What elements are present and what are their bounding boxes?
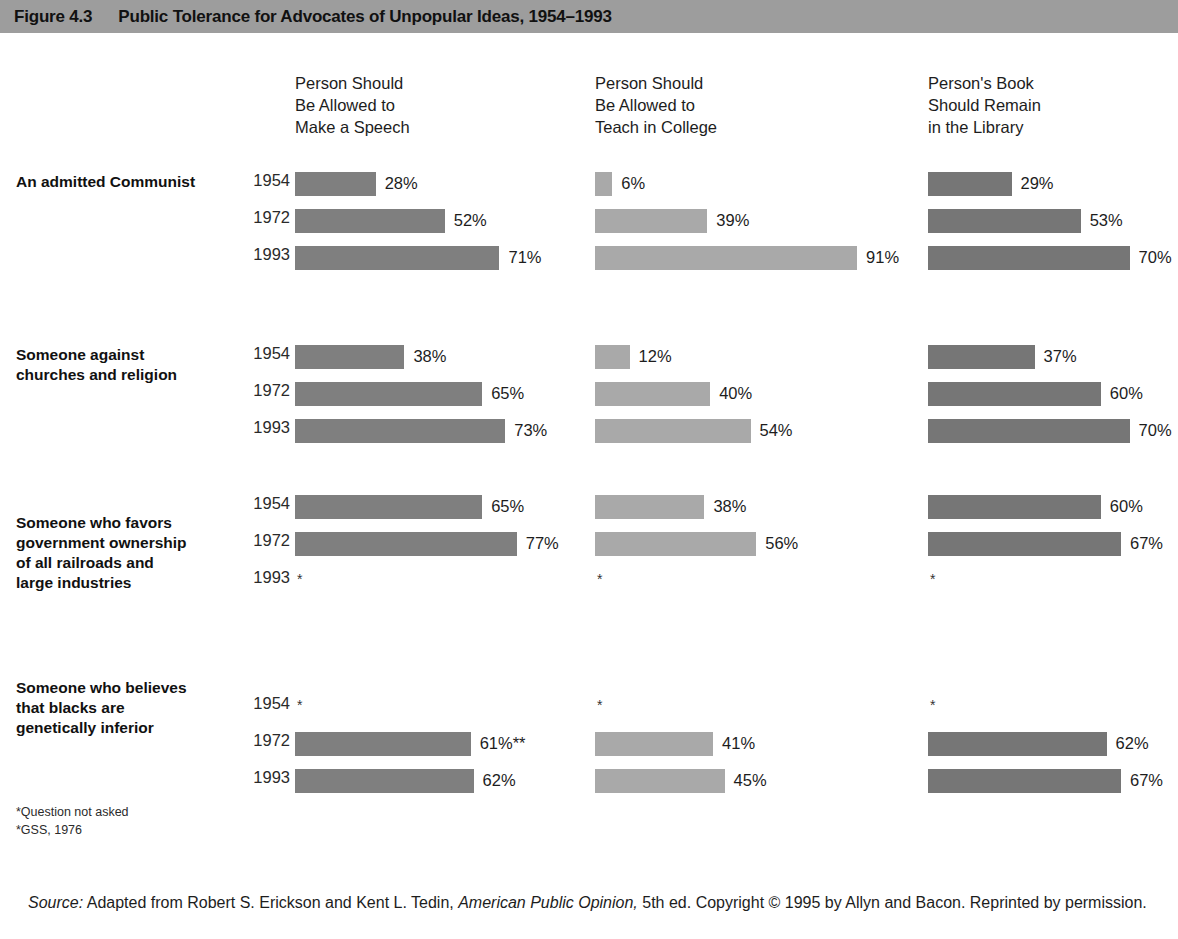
bar — [928, 345, 1035, 369]
chart-plot-area: An admitted Communist195428%6%29%197252%… — [0, 0, 1178, 790]
bar — [295, 172, 376, 196]
bar — [928, 172, 1012, 196]
bar — [295, 769, 474, 793]
bar-value-label: 65% — [491, 497, 524, 516]
bar-value-label: 38% — [413, 347, 446, 366]
bar-value-label: 53% — [1090, 211, 1123, 230]
bar — [595, 382, 710, 406]
year-label: 1954 — [234, 494, 290, 513]
footnote-gss: *GSS, 1976 — [16, 821, 129, 839]
source-publication-title: American Public Opinion, — [458, 894, 638, 911]
year-label: 1954 — [234, 344, 290, 363]
bar — [595, 172, 612, 196]
group-label: Someone against churches and religion — [16, 345, 177, 385]
bar — [595, 419, 751, 443]
bar-value-label: 67% — [1130, 771, 1163, 790]
bar-value-label: 29% — [1021, 174, 1054, 193]
bar-value-label: 54% — [760, 421, 793, 440]
source-text-after: 5th ed. Copyright © 1995 by Allyn and Ba… — [638, 894, 1147, 911]
bar — [928, 769, 1121, 793]
bar-value-label: 62% — [483, 771, 516, 790]
bar-value-label: 61%** — [480, 734, 526, 753]
bar — [595, 532, 756, 556]
bar-value-label: 39% — [716, 211, 749, 230]
year-label: 1972 — [234, 208, 290, 227]
bar — [295, 419, 505, 443]
group-label: Someone who believes that blacks are gen… — [16, 678, 187, 738]
year-label: 1993 — [234, 768, 290, 787]
bar — [928, 209, 1081, 233]
bar-value-label: 62% — [1116, 734, 1149, 753]
bar-value-label: 60% — [1110, 497, 1143, 516]
bar — [295, 382, 482, 406]
source-label: Source: — [28, 894, 83, 911]
bar-value-label: 37% — [1044, 347, 1077, 366]
year-label: 1972 — [234, 731, 290, 750]
bar — [928, 532, 1121, 556]
not-asked-marker: * — [930, 571, 935, 587]
year-label: 1954 — [234, 171, 290, 190]
year-label: 1954 — [234, 694, 290, 713]
bar-value-label: 65% — [491, 384, 524, 403]
bar — [295, 345, 404, 369]
footnotes: *Question not asked *GSS, 1976 — [16, 803, 129, 839]
bar-value-label: 38% — [713, 497, 746, 516]
bar — [928, 382, 1101, 406]
year-label: 1972 — [234, 531, 290, 550]
year-label: 1972 — [234, 381, 290, 400]
bar-value-label: 70% — [1139, 421, 1172, 440]
bar-value-label: 45% — [734, 771, 767, 790]
bar-value-label: 73% — [514, 421, 547, 440]
group-label: Someone who favors government ownership … — [16, 513, 187, 593]
bar — [595, 732, 713, 756]
bar-value-label: 77% — [526, 534, 559, 553]
year-label: 1993 — [234, 245, 290, 264]
bar-value-label: 40% — [719, 384, 752, 403]
bar-value-label: 12% — [639, 347, 672, 366]
bar-value-label: 60% — [1110, 384, 1143, 403]
bar — [295, 495, 482, 519]
not-asked-marker: * — [597, 697, 602, 713]
bar — [928, 495, 1101, 519]
bar — [928, 732, 1107, 756]
bar-value-label: 6% — [621, 174, 645, 193]
bar — [595, 495, 704, 519]
bar — [295, 209, 445, 233]
not-asked-marker: * — [297, 571, 302, 587]
bar-value-label: 91% — [866, 248, 899, 267]
bar-value-label: 67% — [1130, 534, 1163, 553]
bar — [295, 732, 471, 756]
bar — [595, 246, 857, 270]
bar — [295, 246, 499, 270]
bar-value-label: 70% — [1139, 248, 1172, 267]
bar — [595, 769, 725, 793]
not-asked-marker: * — [597, 571, 602, 587]
group-label: An admitted Communist — [16, 172, 195, 192]
not-asked-marker: * — [930, 697, 935, 713]
bar — [595, 209, 707, 233]
bar-value-label: 52% — [454, 211, 487, 230]
year-label: 1993 — [234, 418, 290, 437]
bar — [928, 419, 1130, 443]
bar-value-label: 71% — [508, 248, 541, 267]
not-asked-marker: * — [297, 697, 302, 713]
bar — [295, 532, 517, 556]
bar-value-label: 28% — [385, 174, 418, 193]
source-text-before: Adapted from Robert S. Erickson and Kent… — [83, 894, 458, 911]
bar-value-label: 56% — [765, 534, 798, 553]
source-note: Source: Adapted from Robert S. Erickson … — [28, 890, 1158, 915]
bar — [928, 246, 1130, 270]
bar-value-label: 41% — [722, 734, 755, 753]
bar — [595, 345, 630, 369]
year-label: 1993 — [234, 568, 290, 587]
footnote-question-not-asked: *Question not asked — [16, 803, 129, 821]
